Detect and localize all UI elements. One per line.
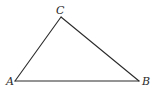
edge-bc [61, 17, 139, 81]
triangle-diagram: A B C [0, 0, 157, 96]
vertex-label-b: B [141, 75, 150, 88]
edge-ca [15, 17, 61, 81]
vertex-label-a: A [5, 75, 14, 88]
vertex-label-c: C [56, 4, 65, 17]
